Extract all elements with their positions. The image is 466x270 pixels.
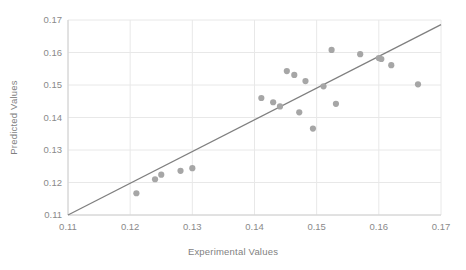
data-point[interactable] <box>357 51 363 57</box>
data-point[interactable] <box>296 109 302 115</box>
y-tick-label: 0.12 <box>28 177 62 188</box>
data-point[interactable] <box>158 172 164 178</box>
scatter-chart: Experimental Values Predicted Values 0.1… <box>0 0 466 270</box>
x-tick-label: 0.14 <box>235 221 275 232</box>
y-axis-title: Predicted Values <box>8 58 19 178</box>
data-point[interactable] <box>415 81 421 87</box>
x-tick-label: 0.16 <box>359 221 399 232</box>
data-point[interactable] <box>388 62 394 68</box>
data-point[interactable] <box>333 101 339 107</box>
data-point[interactable] <box>284 68 290 74</box>
data-point[interactable] <box>270 99 276 105</box>
data-point[interactable] <box>133 190 139 196</box>
data-point[interactable] <box>189 165 195 171</box>
data-point[interactable] <box>328 47 334 53</box>
data-point[interactable] <box>177 168 183 174</box>
data-point[interactable] <box>291 72 297 78</box>
y-tick-label: 0.15 <box>28 79 62 90</box>
data-point[interactable] <box>320 83 326 89</box>
data-point[interactable] <box>258 95 264 101</box>
data-point[interactable] <box>302 78 308 84</box>
y-tick-label: 0.11 <box>28 209 62 220</box>
x-tick-label: 0.12 <box>110 221 150 232</box>
y-tick-label: 0.13 <box>28 144 62 155</box>
x-tick-label: 0.15 <box>297 221 337 232</box>
data-point[interactable] <box>277 103 283 109</box>
x-tick-label: 0.13 <box>172 221 212 232</box>
y-tick-label: 0.17 <box>28 14 62 25</box>
y-tick-label: 0.16 <box>28 47 62 58</box>
data-point[interactable] <box>152 176 158 182</box>
x-tick-label: 0.17 <box>421 221 461 232</box>
data-point[interactable] <box>378 56 384 62</box>
x-tick-label: 0.11 <box>48 221 88 232</box>
y-tick-label: 0.14 <box>28 112 62 123</box>
x-axis-title: Experimental Values <box>0 246 466 257</box>
data-point[interactable] <box>310 125 316 131</box>
